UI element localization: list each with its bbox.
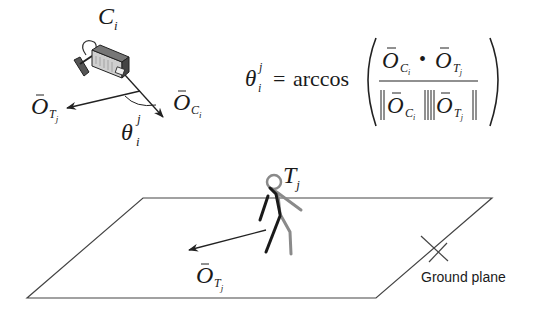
svg-text:O: O <box>382 48 399 73</box>
angle-formula: θ j i = arccos O Ci • O Tj O Ci O Tj <box>245 38 498 126</box>
svg-text:arccos: arccos <box>293 66 349 91</box>
svg-text:Tj: Tj <box>49 107 59 124</box>
svg-text:O: O <box>387 93 404 118</box>
svg-text:j: j <box>135 111 141 126</box>
svg-text:=: = <box>273 66 285 91</box>
svg-text:θ: θ <box>245 66 256 91</box>
svg-text:i: i <box>258 81 261 95</box>
svg-text:θ: θ <box>121 119 133 145</box>
svg-text:O: O <box>31 93 48 119</box>
svg-text:•: • <box>419 48 426 70</box>
target-heading-label: O Tj <box>196 262 224 293</box>
svg-text:Tj: Tj <box>454 106 464 122</box>
svg-text:Ci: Ci <box>405 106 415 122</box>
camera-vector-arrow <box>125 75 163 117</box>
svg-text:O: O <box>436 93 453 118</box>
camera-label: Ci <box>98 3 118 33</box>
svg-text:j: j <box>257 60 263 74</box>
svg-text:O: O <box>173 89 190 115</box>
svg-text:Ci: Ci <box>400 61 410 77</box>
target-label: Tj <box>283 162 300 192</box>
svg-text:Tj: Tj <box>453 61 463 77</box>
svg-text:O: O <box>196 262 213 288</box>
diagram-canvas: Ci O Tj O Ci θ j i θ j i = arccos O Ci • <box>0 0 559 313</box>
camera-icon <box>74 41 129 78</box>
target-vector-label: O Tj <box>31 93 59 124</box>
angle-label: θ j i <box>121 111 141 149</box>
ground-plane-label: Ground plane <box>421 269 506 285</box>
svg-text:O: O <box>435 48 452 73</box>
svg-text:Ci: Ci <box>191 103 202 120</box>
camera-vector-label: O Ci <box>173 89 202 120</box>
svg-text:Tj: Tj <box>214 276 224 293</box>
target-heading-arrow <box>189 230 266 250</box>
svg-text:i: i <box>136 134 140 149</box>
